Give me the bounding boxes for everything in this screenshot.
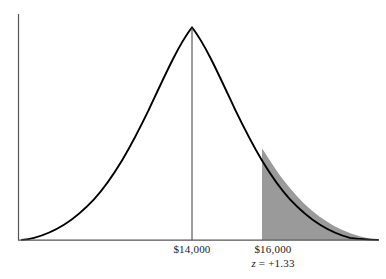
mean-value-text: $14,000 — [173, 243, 210, 255]
cutoff-value-text: $16,000 — [254, 243, 291, 255]
normal-distribution-figure: $14,000 $16,000 z = +1.33 — [0, 0, 386, 279]
normal-curve-chart — [0, 0, 386, 279]
z-score-value-text: = +1.33 — [256, 257, 295, 269]
cutoff-axis-label: $16,000 z = +1.33 — [236, 243, 310, 269]
bell-curve-line — [22, 27, 378, 240]
shaded-tail-region — [262, 148, 378, 240]
mean-axis-label: $14,000 — [155, 243, 229, 255]
cutoff-z-score-label: z = +1.33 — [236, 257, 310, 269]
